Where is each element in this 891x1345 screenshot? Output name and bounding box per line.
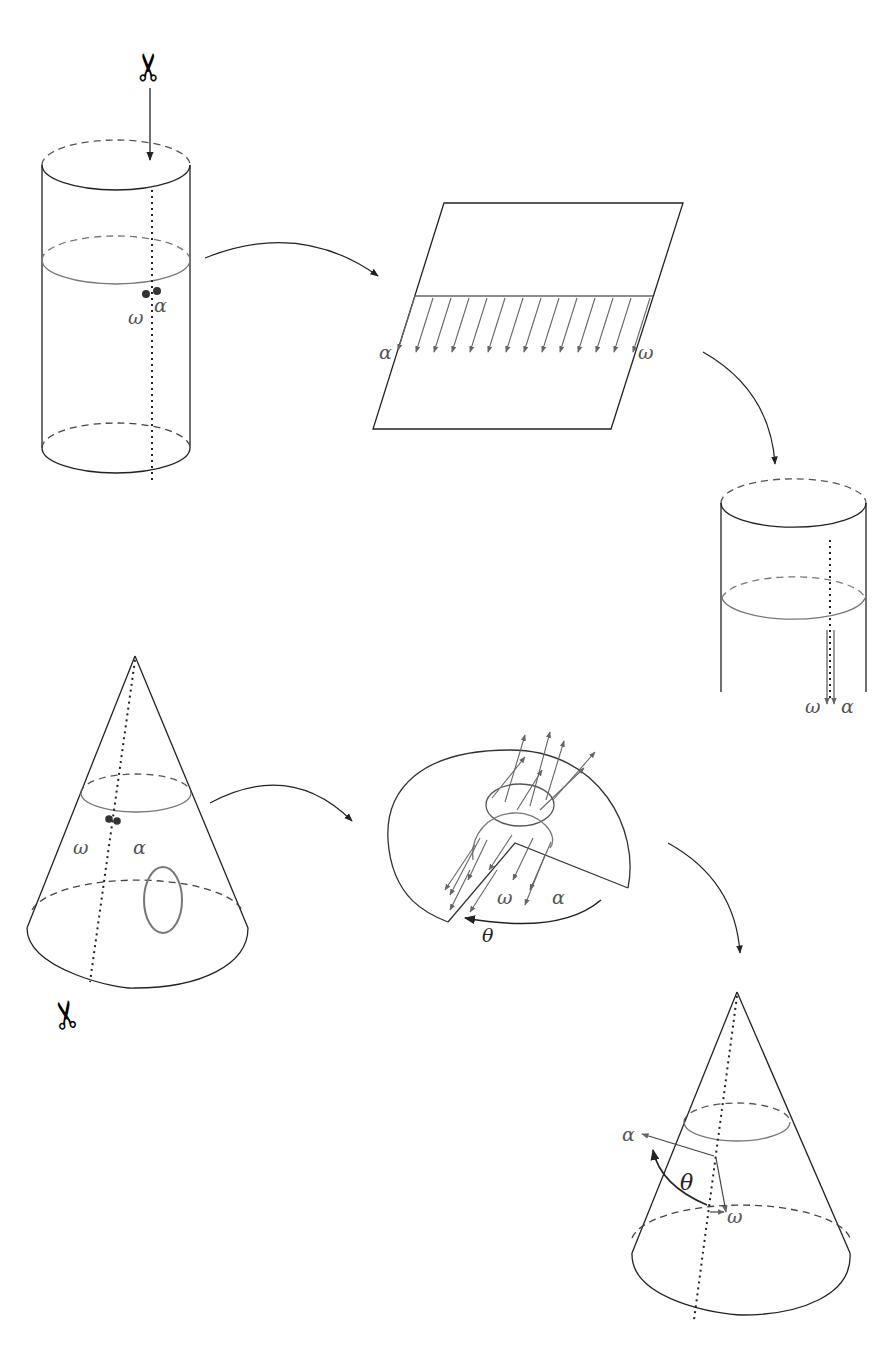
label-cyl2-alpha: α xyxy=(841,697,854,716)
label-flat-theta: θ xyxy=(482,926,493,945)
cone-original xyxy=(27,656,248,988)
map-arrow-1 xyxy=(205,243,378,276)
theta-arc-flat xyxy=(465,900,601,924)
map-arrow-4 xyxy=(668,843,740,953)
label-flat-omega: ω xyxy=(497,888,513,907)
cylinder-reglued xyxy=(721,479,866,700)
label-plane-alpha: α xyxy=(379,343,392,362)
label-cone2-alpha: α xyxy=(622,1125,635,1144)
label-cyl1-omega: ω xyxy=(128,308,144,327)
label-cone1-omega: ω xyxy=(73,838,89,857)
transport-arrows-plane xyxy=(398,296,650,352)
map-arrow-3 xyxy=(210,785,352,821)
scissors-icon-bottom: ✂ xyxy=(45,996,88,1034)
scissors-icon-top: ✂ xyxy=(130,51,168,83)
cone-seam-dots xyxy=(105,815,121,825)
cone-reglued xyxy=(632,992,850,1320)
label-cone1-alpha: α xyxy=(133,838,146,857)
label-plane-omega: ω xyxy=(638,343,654,362)
label-cone2-theta: θ xyxy=(680,1172,693,1194)
label-cyl2-omega: ω xyxy=(805,697,821,716)
figure-canvas: ✂ ✂ ω α α ω ω α ω α ω α θ α θ ω xyxy=(0,0,891,1345)
label-flat-alpha: α xyxy=(552,888,565,907)
unrolled-plane xyxy=(373,203,683,429)
diagram-svg xyxy=(0,0,891,1345)
cylinder-original xyxy=(42,88,190,483)
transport-arrows-flat xyxy=(445,732,595,912)
map-arrow-2 xyxy=(703,352,775,464)
label-cone2-omega: ω xyxy=(727,1207,743,1226)
label-cyl1-alpha: α xyxy=(154,296,167,315)
